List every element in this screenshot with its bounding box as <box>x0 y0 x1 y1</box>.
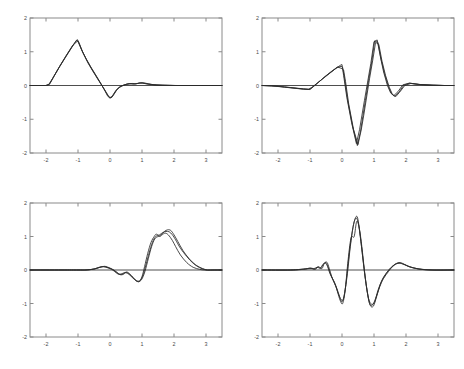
x-axis-tick-label: 1 <box>373 341 376 347</box>
y-axis-tick-label: -1 <box>22 116 27 122</box>
y-axis-tick-label: 0 <box>24 83 27 89</box>
x-axis-tick-label: -2 <box>276 341 281 347</box>
x-axis-tick-label: 2 <box>173 341 176 347</box>
y-axis-tick-label: -2 <box>22 334 27 340</box>
plot-svg: -2-10123-2-1012 <box>232 185 464 369</box>
plot-svg: -2-10123-2-1012 <box>232 0 464 185</box>
y-axis-tick-label: 0 <box>256 267 259 273</box>
x-axis-tick-label: -1 <box>308 341 313 347</box>
x-axis-tick-label: -2 <box>44 157 49 163</box>
y-axis-tick-label: 2 <box>256 200 259 206</box>
y-axis-tick-label: 1 <box>256 49 259 55</box>
y-axis-tick-label: 0 <box>24 267 27 273</box>
x-axis-tick-label: 2 <box>405 157 408 163</box>
x-axis-tick-label: 3 <box>437 341 440 347</box>
panel-bottom-left: -2-10123-2-1012 <box>0 185 232 369</box>
x-axis-tick-label: 3 <box>205 341 208 347</box>
x-axis-tick-label: 2 <box>405 341 408 347</box>
x-axis-tick-label: 1 <box>141 157 144 163</box>
panel-top-left: -2-10123-2-1012 <box>0 0 232 185</box>
y-axis-tick-label: 1 <box>256 234 259 240</box>
plot-svg: -2-10123-2-1012 <box>0 185 232 369</box>
x-axis-tick-label: 0 <box>109 157 112 163</box>
y-axis-tick-label: 2 <box>24 200 27 206</box>
y-axis-tick-label: -1 <box>254 301 259 307</box>
x-axis-tick-label: -1 <box>76 341 81 347</box>
y-axis-tick-label: -2 <box>22 150 27 156</box>
y-axis-tick-label: -1 <box>254 116 259 122</box>
y-axis-tick-label: -2 <box>254 334 259 340</box>
panel-top-right: -2-10123-2-1012 <box>232 0 464 185</box>
y-axis-tick-label: 2 <box>24 15 27 21</box>
y-axis-tick-label: 0 <box>256 83 259 89</box>
x-axis-tick-label: 1 <box>373 157 376 163</box>
x-axis-tick-label: 0 <box>109 341 112 347</box>
x-axis-tick-label: -2 <box>44 341 49 347</box>
y-axis-tick-label: 1 <box>24 49 27 55</box>
x-axis-tick-label: -1 <box>76 157 81 163</box>
x-axis-tick-label: 0 <box>341 157 344 163</box>
y-axis-tick-label: 1 <box>24 234 27 240</box>
y-axis-tick-label: -1 <box>22 301 27 307</box>
x-axis-tick-label: -1 <box>308 157 313 163</box>
x-axis-tick-label: 3 <box>205 157 208 163</box>
x-axis-tick-label: 0 <box>341 341 344 347</box>
panel-bottom-right: -2-10123-2-1012 <box>232 185 464 369</box>
x-axis-tick-label: -2 <box>276 157 281 163</box>
plot-svg: -2-10123-2-1012 <box>0 0 232 185</box>
y-axis-tick-label: -2 <box>254 150 259 156</box>
x-axis-tick-label: 2 <box>173 157 176 163</box>
y-axis-tick-label: 2 <box>256 15 259 21</box>
figure-canvas: -2-10123-2-1012 -2-10123-2-1012 -2-10123… <box>0 0 464 369</box>
x-axis-tick-label: 1 <box>141 341 144 347</box>
x-axis-tick-label: 3 <box>437 157 440 163</box>
